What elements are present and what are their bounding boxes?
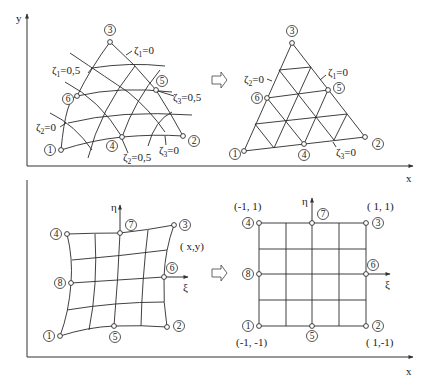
node-2 [181,134,186,139]
label-zeta2-0: ζ2=0 [244,73,265,88]
node-8 [69,281,74,286]
label-zeta3-0-5: ζ3=0,5 [173,91,202,106]
grid-line [279,67,311,70]
node-4 [257,221,262,226]
node-label-8: 8 [55,278,66,289]
svg-text:5: 5 [160,76,165,86]
node-label-4: 4 [51,229,62,240]
xy-coordinate-label: ( x,y) [180,240,204,253]
node-label-1: 1 [230,149,241,160]
node-label-5: 5 [110,332,121,343]
diagram-canvas: y x x [0,0,432,385]
svg-text:6: 6 [66,94,71,104]
master-square-element: η ξ 1 2 3 4 5 6 7 8 (-1, 1) ( 1, 1) (-1,… [234,195,394,349]
leader-line [267,79,272,81]
bottom-x-axis-label: x [406,365,412,377]
node-6 [162,275,167,280]
node-7 [118,231,123,236]
svg-text:3: 3 [376,218,381,228]
node-label-6: 6 [63,94,74,105]
grid-line [267,98,304,144]
node-5 [310,324,315,329]
edge-3-2 [110,42,183,136]
grid-line [255,124,274,148]
node-4 [65,232,70,237]
straight-triangle-element: 1 2 3 4 5 6 ζ2=0 ζ1=0 ζ3=0 [230,26,384,162]
eta-axis-label: η [111,201,117,213]
eta-axis-label: η [302,195,308,207]
leader-line [126,51,132,55]
svg-text:4: 4 [54,229,59,239]
svg-text:7: 7 [321,209,326,219]
svg-text:6: 6 [170,263,175,273]
node-5 [112,324,117,329]
label-zeta2-0-5: ζ2=0,5 [123,151,152,166]
svg-text:6: 6 [255,93,260,103]
node-5 [326,88,331,93]
node-label-3: 3 [180,220,191,231]
leader-line [165,136,166,145]
grid-curve [148,112,172,146]
svg-text:1: 1 [246,321,251,331]
svg-text:3: 3 [108,25,113,35]
node-label-2: 2 [174,321,185,332]
node-1 [242,149,247,154]
node-3 [364,221,369,226]
top-x-axis-label: x [406,172,412,184]
node-4 [302,142,307,147]
node-label-6: 6 [368,260,379,271]
node-label-3: 3 [105,25,116,36]
svg-text:6: 6 [371,260,376,270]
node-label-5: 5 [157,76,168,87]
node-8 [257,272,262,277]
curved-quad-element: η ξ ( x,y) 1 2 3 4 5 6 7 8 [44,201,205,343]
node-label-1: 1 [44,331,55,342]
svg-text:2: 2 [177,321,182,331]
svg-text:2: 2 [376,139,381,149]
svg-text:8: 8 [58,278,63,288]
svg-text:3: 3 [183,220,188,230]
label-zeta1-0-5: ζ1=0,5 [52,64,81,79]
node-label-2: 2 [373,139,384,150]
top-y-axis-label: y [16,12,22,24]
node-3 [290,41,295,46]
node-1 [58,334,63,339]
node-label-4: 4 [243,218,254,229]
node-3 [172,223,177,228]
node-label-1: 1 [45,145,56,156]
svg-text:5: 5 [113,332,118,342]
node-7 [310,221,315,226]
node-1 [257,324,262,329]
bottom-axes: x [27,180,413,377]
node-5 [154,88,159,93]
svg-text:8: 8 [246,269,251,279]
node-label-6: 6 [252,93,263,104]
corner-coord-top-left: (-1, 1) [234,200,262,213]
grid-line [304,90,328,144]
svg-text:3: 3 [290,26,295,36]
leader-line [60,123,66,127]
svg-text:2: 2 [192,136,197,146]
node-label-5: 5 [307,331,318,342]
svg-text:4: 4 [302,150,307,160]
label-zeta3-0: ζ3=0 [159,144,180,159]
corner-coord-top-right: ( 1, 1) [367,200,394,213]
mapping-arrow-top-icon [212,72,227,88]
label-zeta1-0: ζ1=0 [134,44,155,59]
svg-text:5: 5 [337,83,342,93]
curved-triangle-element: 1 2 3 4 5 6 ζ1=0 ζ1=0,5 ζ3=0,5 ζ2=0 ζ2=0… [36,25,202,167]
svg-text:7: 7 [129,220,134,230]
svg-text:2: 2 [376,321,381,331]
grid-line [279,70,334,140]
svg-text:5: 5 [310,331,315,341]
node-6 [265,96,270,101]
svg-text:1: 1 [47,331,52,341]
node-label-7: 7 [318,209,329,220]
node-label-3: 3 [287,26,298,37]
node-2 [165,325,170,330]
isoparametric-mapping-diagram: y x x [0,0,432,385]
mapping-arrow-bottom-icon [212,265,227,281]
node-label-2: 2 [189,136,200,147]
node-label-7: 7 [126,220,137,231]
label-zeta3-0: ζ3=0 [336,146,357,161]
